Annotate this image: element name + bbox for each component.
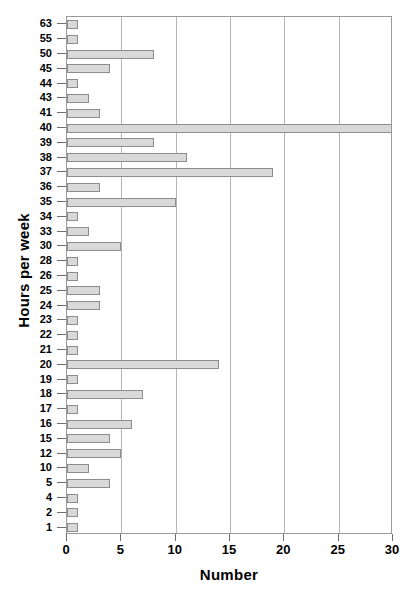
bar-24 — [67, 301, 100, 310]
y-tick-label-30: 30 — [40, 239, 52, 251]
x-axis-title: Number — [66, 566, 392, 583]
bar-series — [67, 17, 391, 533]
y-tick-label-20: 20 — [40, 358, 52, 370]
y-tick-label-44: 44 — [40, 77, 52, 89]
y-tick-label-38: 38 — [40, 151, 52, 163]
y-tick-55 — [57, 38, 66, 39]
bar-34 — [67, 212, 78, 221]
y-tick-22 — [57, 334, 66, 335]
y-tick-label-2: 2 — [46, 506, 52, 518]
bar-43 — [67, 94, 89, 103]
y-tick-label-10: 10 — [40, 461, 52, 473]
y-tick-35 — [57, 201, 66, 202]
bar-12 — [67, 449, 121, 458]
bar-5 — [67, 479, 110, 488]
bar-26 — [67, 272, 78, 281]
y-tick-26 — [57, 275, 66, 276]
bar-33 — [67, 227, 89, 236]
x-tick-10 — [175, 534, 176, 541]
x-tick-label-0: 0 — [62, 542, 69, 557]
y-tick-label-22: 22 — [40, 328, 52, 340]
y-tick-label-23: 23 — [40, 313, 52, 325]
bar-18 — [67, 390, 143, 399]
y-tick-38 — [57, 157, 66, 158]
bar-38 — [67, 153, 187, 162]
y-tick-23 — [57, 319, 66, 320]
y-tick-2 — [57, 512, 66, 513]
y-tick-label-37: 37 — [40, 165, 52, 177]
bar-25 — [67, 286, 100, 295]
y-tick-label-50: 50 — [40, 47, 52, 59]
y-tick-label-24: 24 — [40, 299, 52, 311]
y-tick-label-35: 35 — [40, 195, 52, 207]
bar-37 — [67, 168, 273, 177]
y-tick-label-1: 1 — [46, 521, 52, 533]
bar-28 — [67, 257, 78, 266]
y-tick-label-12: 12 — [40, 447, 52, 459]
x-tick-15 — [229, 534, 230, 541]
y-tick-19 — [57, 379, 66, 380]
x-tick-label-5: 5 — [117, 542, 124, 557]
y-tick-24 — [57, 305, 66, 306]
y-tick-39 — [57, 142, 66, 143]
bar-41 — [67, 109, 100, 118]
y-tick-33 — [57, 231, 66, 232]
bar-10 — [67, 464, 89, 473]
bar-40 — [67, 124, 392, 133]
y-tick-label-55: 55 — [40, 32, 52, 44]
bar-21 — [67, 346, 78, 355]
x-tick-label-15: 15 — [222, 542, 236, 557]
y-tick-label-34: 34 — [40, 210, 52, 222]
y-tick-44 — [57, 83, 66, 84]
y-tick-1 — [57, 527, 66, 528]
y-tick-63 — [57, 23, 66, 24]
x-tick-30 — [392, 534, 393, 541]
y-tick-label-36: 36 — [40, 180, 52, 192]
bar-63 — [67, 20, 78, 29]
y-tick-20 — [57, 364, 66, 365]
x-tick-label-30: 30 — [385, 542, 399, 557]
x-tick-label-25: 25 — [330, 542, 344, 557]
y-tick-43 — [57, 97, 66, 98]
bar-4 — [67, 494, 78, 503]
bar-1 — [67, 523, 78, 532]
bar-22 — [67, 331, 78, 340]
bar-23 — [67, 316, 78, 325]
y-tick-41 — [57, 112, 66, 113]
bar-50 — [67, 50, 154, 59]
bar-39 — [67, 138, 154, 147]
y-tick-25 — [57, 290, 66, 291]
y-tick-label-28: 28 — [40, 254, 52, 266]
bar-19 — [67, 375, 78, 384]
y-tick-15 — [57, 438, 66, 439]
y-tick-50 — [57, 53, 66, 54]
y-tick-12 — [57, 453, 66, 454]
y-tick-37 — [57, 171, 66, 172]
y-tick-28 — [57, 260, 66, 261]
y-tick-label-18: 18 — [40, 387, 52, 399]
bar-45 — [67, 64, 110, 73]
y-tick-5 — [57, 482, 66, 483]
y-tick-label-16: 16 — [40, 417, 52, 429]
x-tick-0 — [66, 534, 67, 541]
y-tick-18 — [57, 393, 66, 394]
y-tick-label-33: 33 — [40, 225, 52, 237]
y-tick-17 — [57, 408, 66, 409]
bar-15 — [67, 434, 110, 443]
bar-chart: Hours per week 6355504544434140393837363… — [0, 0, 410, 596]
bar-55 — [67, 35, 78, 44]
bar-44 — [67, 79, 78, 88]
x-tick-label-20: 20 — [276, 542, 290, 557]
y-tick-30 — [57, 245, 66, 246]
bar-36 — [67, 183, 100, 192]
bar-2 — [67, 508, 78, 517]
plot-area — [66, 16, 392, 534]
y-tick-16 — [57, 423, 66, 424]
x-tick-5 — [120, 534, 121, 541]
y-tick-45 — [57, 68, 66, 69]
y-tick-label-17: 17 — [40, 402, 52, 414]
y-tick-label-15: 15 — [40, 432, 52, 444]
bar-17 — [67, 405, 78, 414]
y-tick-label-4: 4 — [46, 491, 52, 503]
y-tick-21 — [57, 349, 66, 350]
